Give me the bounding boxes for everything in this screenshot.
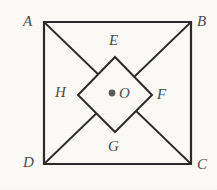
vertex-label-G: G — [108, 139, 119, 154]
center-label-O: O — [119, 86, 130, 101]
vertex-label-F: F — [157, 87, 166, 102]
vertex-label-B: B — [197, 14, 206, 29]
vertex-label-E: E — [109, 33, 118, 48]
vertex-label-A: A — [23, 14, 32, 29]
geometry-figure: A B C D E F G H O — [0, 0, 217, 190]
vertex-label-C: C — [197, 157, 207, 172]
vertex-label-H: H — [55, 85, 66, 100]
center-point-dot — [109, 90, 116, 97]
vertex-label-D: D — [23, 155, 34, 170]
